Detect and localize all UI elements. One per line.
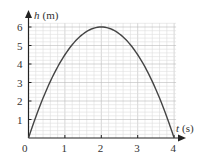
y-tick-label: 3 <box>17 77 23 89</box>
x-tick-label: 3 <box>134 142 140 154</box>
y-tick-label: 1 <box>17 114 23 126</box>
x-tick-label: 0 <box>22 142 28 154</box>
x-tick-label: 2 <box>98 142 104 154</box>
y-axis-label: h(m) <box>34 9 59 22</box>
axes <box>25 10 186 142</box>
y-tick-label: 2 <box>17 95 23 107</box>
height-time-chart: 01234123456 h(m) t(s) <box>0 0 203 158</box>
x-axis-label: t(s) <box>176 122 194 135</box>
y-axis-arrow-icon <box>25 10 32 18</box>
x-tick-label: 1 <box>61 142 67 154</box>
y-tick-label: 5 <box>17 40 23 52</box>
x-axis-arrow-icon <box>178 135 186 142</box>
y-tick-label: 6 <box>17 21 23 33</box>
x-tick-label: 4 <box>171 142 177 154</box>
y-tick-label: 4 <box>17 58 23 70</box>
